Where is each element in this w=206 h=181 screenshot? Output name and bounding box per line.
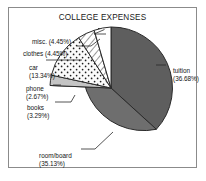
pie-label-room-board-percent: (35.13%): [39, 160, 72, 168]
pie-label-misc-name: misc.: [32, 38, 47, 45]
pie-label-phone-name: phone: [26, 85, 44, 92]
pie-label-clothes-name: clothes: [23, 50, 43, 57]
pie-label-room-board: room/board (35.13%): [39, 152, 72, 167]
pie-label-car-name: car: [29, 64, 38, 71]
pie-label-car-percent: (13.34%): [29, 72, 55, 80]
pie-label-misc-percent: (4.45%): [49, 38, 71, 45]
pie-label-clothes-percent: (4.45%): [45, 50, 67, 57]
pie-label-misc: misc. (4.45%): [32, 38, 71, 46]
pie-label-tuition: tuition (36.68%): [173, 67, 199, 82]
leader-line-room-board: [81, 132, 113, 149]
chart-frame: COLLEGE EXPENSES: [8, 7, 197, 168]
pie-label-books-name: books: [27, 104, 44, 111]
pie-label-phone-percent: (2.67%): [26, 93, 48, 101]
leader-line-books: [55, 95, 75, 102]
pie-label-tuition-name: tuition: [173, 67, 190, 74]
pie-label-phone: phone (2.67%): [26, 85, 48, 100]
pie-label-clothes: clothes (4.45%): [23, 50, 67, 58]
pie-label-room-board-name: room/board: [39, 152, 72, 159]
pie-label-car: car (13.34%): [29, 64, 55, 79]
pie-label-tuition-percent: (36.68%): [173, 75, 199, 83]
pie-label-books: books (3.29%): [27, 104, 49, 119]
pie-label-books-percent: (3.29%): [27, 112, 49, 120]
